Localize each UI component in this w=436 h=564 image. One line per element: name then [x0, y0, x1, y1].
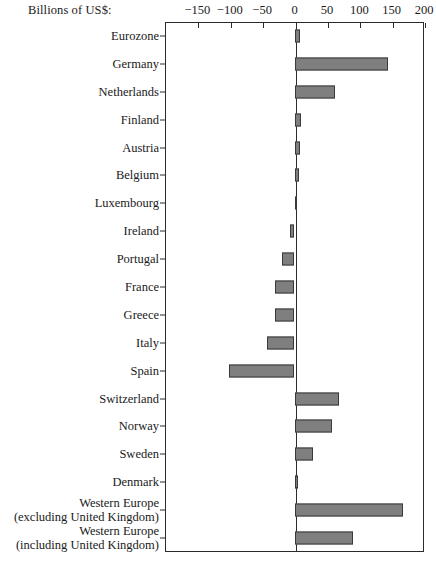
- category-tick-mark: [160, 398, 165, 399]
- category-label-line: Eurozone: [111, 29, 159, 42]
- category-label: Italy: [136, 336, 159, 349]
- bar: [295, 85, 335, 98]
- category-tick-mark: [160, 175, 165, 176]
- bar: [295, 57, 388, 70]
- category-label-line: (excluding United Kingdom): [14, 510, 159, 524]
- category-tick-mark: [160, 454, 165, 455]
- category-label-line: Ireland: [124, 225, 159, 238]
- category-label: Austria: [122, 141, 159, 154]
- category-tick-mark: [160, 342, 165, 343]
- bar-chart: Billions of US$: −150−100−50050100150200…: [0, 0, 436, 564]
- category-label: France: [125, 281, 159, 294]
- category-label: Netherlands: [99, 85, 159, 98]
- bar: [275, 308, 294, 321]
- category-label-line: Western Europe: [14, 497, 159, 511]
- bar: [275, 281, 294, 294]
- bar: [295, 113, 301, 126]
- x-tick-label: −50: [252, 3, 272, 18]
- category-label-line: Portugal: [117, 253, 159, 266]
- category-label-line: Sweden: [119, 448, 159, 461]
- category-label: Ireland: [124, 225, 159, 238]
- category-label-line: Netherlands: [99, 85, 159, 98]
- category-label-line: France: [125, 281, 159, 294]
- category-tick-mark: [160, 370, 165, 371]
- category-tick-mark: [160, 287, 165, 288]
- category-tick-mark: [160, 510, 165, 511]
- bar: [282, 253, 294, 266]
- category-label-line: Switzerland: [99, 392, 159, 405]
- category-label: Sweden: [119, 448, 159, 461]
- bar: [295, 392, 339, 405]
- bar: [267, 336, 295, 349]
- category-label: Denmark: [112, 476, 159, 489]
- bar: [295, 29, 300, 42]
- category-label-line: Italy: [136, 336, 159, 349]
- category-label-line: Greece: [124, 308, 159, 321]
- category-label: Greece: [124, 308, 159, 321]
- category-rows: EurozoneGermanyNetherlandsFinlandAustria…: [0, 22, 436, 552]
- category-label-line: (including United Kingdom): [16, 538, 159, 552]
- bar: [295, 448, 314, 461]
- category-tick-mark: [160, 314, 165, 315]
- category-tick-mark: [160, 91, 165, 92]
- x-tick-label: −100: [217, 3, 243, 18]
- category-label: Germany: [112, 57, 159, 70]
- bar: [295, 420, 333, 433]
- category-label: Switzerland: [99, 392, 159, 405]
- bar: [290, 225, 295, 238]
- bar: [295, 141, 300, 154]
- category-label-line: Spain: [131, 364, 159, 377]
- category-label: Luxembourg: [95, 197, 159, 210]
- bar: [295, 476, 298, 489]
- bar: [295, 532, 353, 545]
- category-tick-mark: [160, 482, 165, 483]
- category-label-line: Luxembourg: [95, 197, 159, 210]
- category-tick-mark: [160, 147, 165, 148]
- category-label: Portugal: [117, 253, 159, 266]
- category-tick-mark: [160, 259, 165, 260]
- x-tick-label: 200: [415, 3, 434, 18]
- category-tick-mark: [160, 426, 165, 427]
- category-label-line: Austria: [122, 141, 159, 154]
- category-label: Eurozone: [111, 29, 159, 42]
- category-tick-mark: [160, 119, 165, 120]
- category-label: Spain: [131, 364, 159, 377]
- x-tick-label: 150: [382, 3, 401, 18]
- x-axis-header: Billions of US$: −150−100−50050100150200: [0, 0, 436, 22]
- category-label-line: Norway: [119, 420, 159, 433]
- bar: [295, 197, 297, 210]
- x-tick-label: −150: [184, 3, 210, 18]
- category-tick-mark: [160, 203, 165, 204]
- category-label: Norway: [119, 420, 159, 433]
- x-axis-unit-label: Billions of US$:: [28, 3, 112, 18]
- bar: [229, 364, 294, 377]
- category-tick-mark: [160, 63, 165, 64]
- category-label-line: Finland: [121, 113, 159, 126]
- bar: [295, 169, 300, 182]
- category-label: Finland: [121, 113, 159, 126]
- category-tick-mark: [160, 538, 165, 539]
- category-tick-mark: [160, 231, 165, 232]
- category-label-line: Germany: [112, 57, 159, 70]
- x-tick-label: 100: [350, 3, 369, 18]
- category-label: Belgium: [116, 169, 159, 182]
- bar: [295, 504, 404, 517]
- category-label: Western Europe(excluding United Kingdom): [14, 497, 159, 524]
- category-label: Western Europe(including United Kingdom): [16, 525, 159, 552]
- x-tick-label: 0: [291, 3, 297, 18]
- category-label-line: Western Europe: [16, 525, 159, 539]
- x-tick-label: 50: [321, 3, 334, 18]
- category-label-line: Denmark: [112, 476, 159, 489]
- category-label-line: Belgium: [116, 169, 159, 182]
- category-tick-mark: [160, 35, 165, 36]
